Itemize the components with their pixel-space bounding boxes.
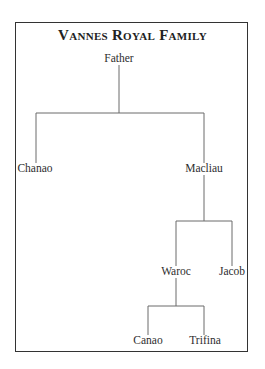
node-chanao: Chanao	[16, 163, 53, 175]
node-canao: Canao	[132, 335, 163, 347]
node-waroc: Waroc	[160, 266, 192, 278]
node-father: Father	[103, 53, 134, 65]
node-macliau: Macliau	[184, 163, 224, 175]
node-jacob: Jacob	[218, 266, 246, 278]
node-trifina: Trifina	[188, 335, 222, 347]
